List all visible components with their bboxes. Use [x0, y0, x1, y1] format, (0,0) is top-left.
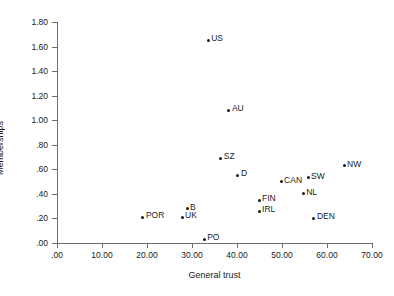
y-tick-label: .40	[2, 190, 48, 199]
data-point-label: IRL	[262, 205, 275, 214]
y-tick-mark	[52, 169, 57, 170]
x-tick-mark	[282, 243, 283, 248]
y-tick-mark	[52, 145, 57, 146]
y-tick-mark	[52, 96, 57, 97]
data-point-label: SZ	[224, 152, 235, 161]
data-point-label: FIN	[262, 194, 276, 203]
data-point-label: SW	[311, 172, 325, 181]
x-tick-mark	[372, 243, 373, 248]
y-tick-label: .20	[2, 214, 48, 223]
data-point-marker	[280, 180, 283, 183]
data-point-marker	[181, 216, 184, 219]
data-point-label: UK	[185, 211, 197, 220]
data-point-label: PO	[207, 233, 219, 242]
data-point-label: NW	[347, 160, 361, 169]
y-tick-mark	[52, 71, 57, 72]
y-tick-mark	[52, 194, 57, 195]
data-point-label: POR	[146, 211, 164, 220]
x-tick-label: 70.00	[342, 251, 394, 260]
x-tick-mark	[327, 243, 328, 248]
data-point-marker	[141, 216, 144, 219]
x-tick-mark	[57, 243, 58, 248]
x-axis-title: General trust	[57, 270, 372, 280]
data-point-label: US	[211, 34, 223, 43]
x-tick-mark	[102, 243, 103, 248]
data-point-marker	[236, 174, 239, 177]
data-point-marker	[207, 39, 210, 42]
y-axis-line	[57, 22, 58, 244]
x-tick-mark	[237, 243, 238, 248]
data-point-marker	[258, 199, 261, 202]
y-tick-mark	[52, 47, 57, 48]
data-point-label: AU	[232, 104, 244, 113]
data-point-marker	[343, 164, 346, 167]
y-tick-label: 1.40	[2, 67, 48, 76]
y-tick-mark	[52, 120, 57, 121]
x-tick-mark	[192, 243, 193, 248]
data-point-marker	[203, 238, 206, 241]
scatter-plot: Memberships .00.20.40.60.801.001.201.401…	[0, 0, 394, 296]
data-point-marker	[227, 109, 230, 112]
data-point-marker	[258, 210, 261, 213]
y-tick-label: 1.00	[2, 116, 48, 125]
data-point-label: DEN	[317, 212, 335, 221]
y-tick-label: .00	[2, 239, 48, 248]
data-point-marker	[307, 176, 310, 179]
y-tick-mark	[52, 22, 57, 23]
y-tick-label: .80	[2, 141, 48, 150]
data-point-label: CAN	[284, 176, 302, 185]
data-point-marker	[302, 192, 305, 195]
x-axis-line	[57, 243, 373, 244]
data-point-marker	[312, 217, 315, 220]
x-tick-mark	[147, 243, 148, 248]
y-tick-label: 1.80	[2, 18, 48, 27]
data-point-label: D	[241, 169, 247, 178]
y-tick-mark	[52, 218, 57, 219]
data-point-marker	[219, 157, 222, 160]
y-tick-label: 1.60	[2, 43, 48, 52]
y-tick-label: 1.20	[2, 92, 48, 101]
y-tick-label: .60	[2, 165, 48, 174]
data-point-label: NL	[306, 188, 317, 197]
